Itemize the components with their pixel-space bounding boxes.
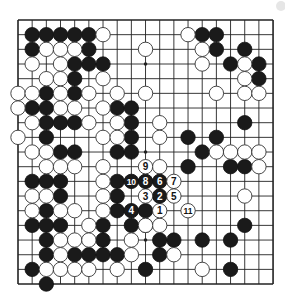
white-stone bbox=[11, 101, 25, 115]
black-stone bbox=[25, 101, 39, 115]
black-stone bbox=[124, 101, 138, 115]
white-stone bbox=[138, 218, 152, 232]
white-stone bbox=[53, 262, 67, 276]
white-stone bbox=[25, 86, 39, 100]
white-stone bbox=[153, 130, 167, 144]
white-stone bbox=[96, 174, 110, 188]
black-stone bbox=[110, 145, 124, 159]
black-stone bbox=[82, 248, 96, 262]
white-stone bbox=[181, 27, 195, 41]
black-stone bbox=[39, 218, 53, 232]
white-stone bbox=[238, 57, 252, 71]
white-stone bbox=[96, 71, 110, 85]
black-stone bbox=[195, 233, 209, 247]
star-point bbox=[144, 62, 148, 66]
star-point bbox=[144, 238, 148, 242]
white-stone bbox=[25, 189, 39, 203]
white-stone bbox=[110, 115, 124, 129]
black-stone bbox=[53, 145, 67, 159]
white-stone bbox=[67, 262, 81, 276]
black-stone bbox=[195, 145, 209, 159]
black-stone bbox=[96, 57, 110, 71]
white-stone bbox=[53, 86, 67, 100]
white-stone bbox=[39, 160, 53, 174]
white-stone bbox=[110, 130, 124, 144]
black-stone bbox=[67, 115, 81, 129]
white-stone bbox=[11, 86, 25, 100]
black-stone bbox=[96, 218, 110, 232]
move-number: 7 bbox=[171, 176, 177, 187]
black-stone bbox=[96, 248, 110, 262]
black-stone bbox=[238, 42, 252, 56]
black-stone bbox=[223, 262, 237, 276]
black-stone bbox=[252, 71, 266, 85]
black-stone bbox=[25, 218, 39, 232]
white-stone bbox=[238, 145, 252, 159]
numbered-move-5: 5 bbox=[167, 189, 181, 203]
white-stone bbox=[53, 57, 67, 71]
black-stone bbox=[39, 174, 53, 188]
white-stone bbox=[138, 86, 152, 100]
black-stone bbox=[124, 218, 138, 232]
go-board-diagram: 1234567891011 bbox=[0, 0, 285, 301]
black-stone bbox=[124, 115, 138, 129]
black-stone bbox=[53, 27, 67, 41]
black-stone bbox=[39, 248, 53, 262]
black-stone bbox=[39, 277, 53, 291]
white-stone bbox=[53, 101, 67, 115]
white-stone bbox=[252, 145, 266, 159]
black-stone bbox=[238, 115, 252, 129]
white-stone bbox=[25, 204, 39, 218]
white-stone bbox=[238, 71, 252, 85]
black-stone bbox=[39, 86, 53, 100]
numbered-move-3: 3 bbox=[138, 189, 152, 203]
white-stone bbox=[195, 42, 209, 56]
move-number: 2 bbox=[157, 191, 163, 202]
white-stone bbox=[82, 262, 96, 276]
white-stone bbox=[96, 160, 110, 174]
black-stone bbox=[110, 204, 124, 218]
move-number: 3 bbox=[143, 191, 149, 202]
black-stone bbox=[53, 115, 67, 129]
white-stone bbox=[67, 160, 81, 174]
black-stone bbox=[110, 101, 124, 115]
page-corner-decoration bbox=[267, 0, 285, 18]
white-stone bbox=[82, 115, 96, 129]
move-number: 11 bbox=[184, 206, 193, 216]
white-stone bbox=[39, 71, 53, 85]
black-stone bbox=[209, 130, 223, 144]
white-stone bbox=[96, 27, 110, 41]
white-stone bbox=[67, 204, 81, 218]
black-stone bbox=[209, 42, 223, 56]
numbered-move-6: 6 bbox=[153, 174, 167, 188]
numbered-move-9: 9 bbox=[138, 160, 152, 174]
white-stone bbox=[39, 145, 53, 159]
white-stone bbox=[153, 218, 167, 232]
black-stone bbox=[124, 145, 138, 159]
numbered-move-7: 7 bbox=[167, 174, 181, 188]
black-stone bbox=[252, 57, 266, 71]
white-stone bbox=[25, 145, 39, 159]
black-stone bbox=[195, 27, 209, 41]
black-stone bbox=[67, 57, 81, 71]
white-stone bbox=[67, 42, 81, 56]
black-stone bbox=[25, 27, 39, 41]
move-number: 9 bbox=[143, 161, 149, 172]
black-stone bbox=[67, 86, 81, 100]
white-stone bbox=[209, 145, 223, 159]
white-stone bbox=[11, 130, 25, 144]
white-stone bbox=[53, 233, 67, 247]
white-stone bbox=[153, 160, 167, 174]
numbered-move-1: 1 bbox=[153, 204, 167, 218]
white-stone bbox=[67, 233, 81, 247]
white-stone bbox=[82, 86, 96, 100]
white-stone bbox=[252, 86, 266, 100]
black-stone bbox=[53, 189, 67, 203]
white-stone bbox=[39, 262, 53, 276]
white-stone bbox=[39, 189, 53, 203]
black-stone bbox=[238, 160, 252, 174]
black-stone bbox=[39, 130, 53, 144]
black-stone bbox=[209, 27, 223, 41]
black-stone bbox=[39, 101, 53, 115]
black-stone bbox=[53, 218, 67, 232]
